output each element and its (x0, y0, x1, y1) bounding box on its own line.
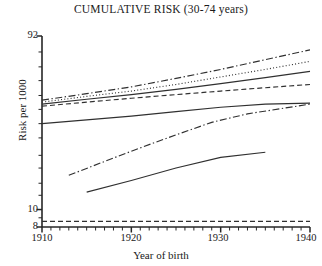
series-line-series-5 (42, 103, 310, 124)
series-line-series-7 (87, 152, 266, 192)
y-axis-ticks (37, 36, 43, 227)
series-line-series-1 (42, 50, 310, 100)
data-series-group (42, 50, 310, 221)
axis-spines (42, 36, 310, 227)
plot-area (0, 0, 322, 266)
series-line-series-2 (42, 61, 310, 102)
chart-figure: CUMULATIVE RISK (30-74 years) Risk per 1… (0, 0, 322, 266)
series-line-series-4 (42, 84, 310, 106)
x-axis-ticks (42, 227, 310, 233)
